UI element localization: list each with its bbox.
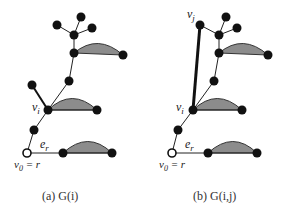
node [210, 77, 219, 86]
label-v0-root: v0 = r [159, 158, 186, 173]
node-vi [44, 106, 53, 115]
label-er: er [40, 137, 49, 153]
label-er: er [185, 137, 194, 153]
node-vi [189, 106, 198, 115]
node [108, 149, 117, 158]
shaded-component-top [219, 43, 268, 55]
node [253, 149, 262, 158]
node [222, 13, 231, 22]
root-node-v0 [168, 149, 176, 157]
caption-a: (a) G(i) [42, 189, 78, 203]
node-vj [196, 21, 205, 30]
label-vj: vj [187, 7, 195, 23]
node [88, 24, 97, 33]
label-vi: vi [176, 100, 184, 116]
node [204, 149, 213, 158]
root-node-v0 [23, 149, 31, 157]
edge-vi-vj-bold [193, 25, 200, 110]
node [215, 49, 224, 58]
node [59, 149, 68, 158]
node [65, 77, 74, 86]
node [70, 49, 79, 58]
node [233, 24, 242, 33]
node [215, 31, 224, 40]
panel-a-graph: vi er v0 = r (a) G(i) [14, 13, 128, 204]
node [77, 13, 86, 22]
node [30, 126, 39, 135]
node [119, 51, 128, 60]
label-v0-root: v0 = r [14, 158, 41, 173]
node [238, 106, 247, 115]
shaded-component-top [74, 43, 123, 55]
shaded-component-bottom [63, 142, 112, 154]
node [53, 21, 62, 30]
panel-b-graph: vj vi er v0 = r (b) G(i,j) [159, 7, 273, 203]
node [174, 126, 183, 135]
shaded-component-bottom [208, 142, 257, 154]
caption-b: (b) G(i,j) [193, 189, 236, 203]
node [93, 106, 102, 115]
label-vi: vi [32, 100, 40, 116]
node [28, 81, 37, 90]
figure-canvas: vi er v0 = r (a) G(i) vj [0, 0, 286, 216]
node [264, 51, 273, 60]
node [70, 31, 79, 40]
